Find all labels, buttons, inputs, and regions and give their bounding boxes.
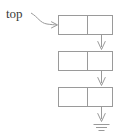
node-3 (59, 88, 113, 107)
top-pointer-label: top (6, 6, 23, 21)
top-pointer-curve (31, 13, 57, 25)
node-1-box (59, 16, 113, 35)
node-2-box (59, 52, 113, 71)
node-1 (59, 16, 113, 35)
top-pointer-arrow (31, 13, 58, 28)
node-2 (59, 52, 113, 71)
stack-linked-list-diagram: top (0, 0, 126, 136)
diagram-canvas: top (0, 0, 126, 136)
ground-null-symbol (94, 125, 110, 131)
node-3-box (59, 88, 113, 107)
